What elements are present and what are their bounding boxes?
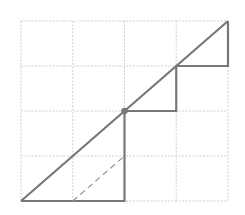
intersection-dot: [121, 108, 127, 114]
background: [0, 0, 245, 215]
staircase-diagram: [0, 0, 245, 215]
